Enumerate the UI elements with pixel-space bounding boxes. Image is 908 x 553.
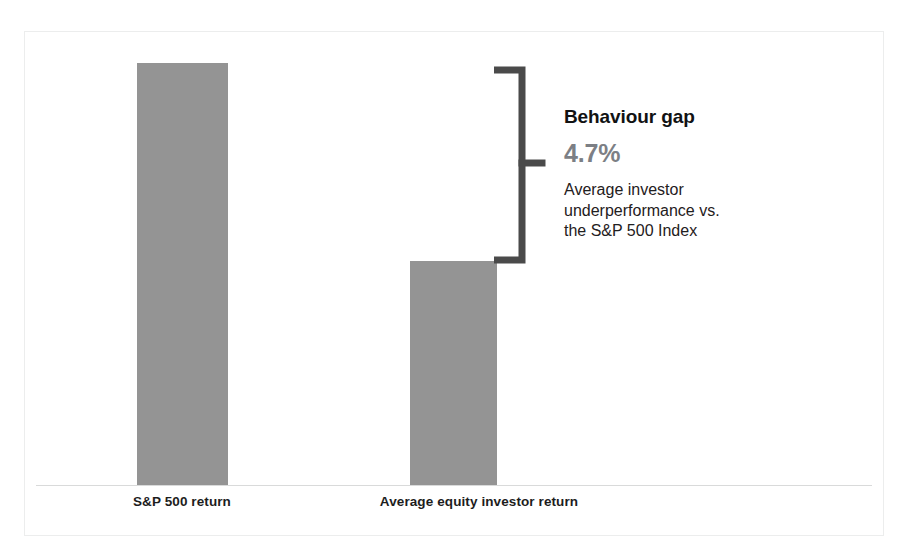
callout-description-line-2: underperformance vs. [564, 201, 864, 221]
callout-title: Behaviour gap [564, 107, 864, 128]
callout-description-line-3: the S&P 500 Index [564, 221, 864, 241]
axis-label-sp500-return: S&P 500 return [62, 494, 302, 509]
axis-label-average-equity-investor-return: Average equity investor return [309, 494, 649, 509]
callout-description-line-1: Average investor [564, 180, 864, 200]
x-axis-line [36, 485, 872, 486]
behaviour-gap-bracket-icon [494, 66, 554, 264]
callout-value: 4.7% [564, 140, 864, 166]
bar-average-equity-investor-return [410, 261, 497, 485]
bar-sp500-return [137, 63, 228, 485]
chart-screenshot: S&P 500 return Average equity investor r… [0, 0, 908, 553]
callout-description: Average investor underperformance vs. th… [564, 180, 864, 241]
behaviour-gap-callout: Behaviour gap 4.7% Average investor unde… [564, 107, 864, 242]
plot-area: S&P 500 return Average equity investor r… [24, 31, 884, 536]
